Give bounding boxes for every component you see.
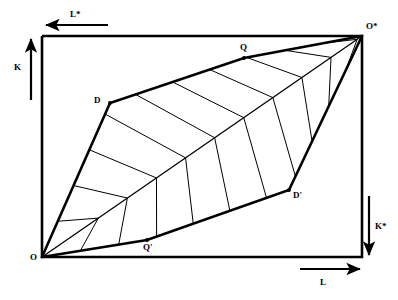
upper-hatch-line [210,70,273,98]
vertex-dot-D [108,101,112,105]
edgeworth-box-diagram: ODQO*Q'D' L*KLK* [0,0,398,300]
axis-label-K-star: K* [375,222,387,231]
vertex-dot-Q [242,56,246,60]
lower-hatch-line [302,77,312,141]
upper-lens-hatching [58,39,357,221]
upper-hatch-line [285,50,331,57]
lower-hatch-line [329,57,331,106]
upper-hatch-line [136,94,215,137]
vertex-label-D: D [94,96,101,105]
axis-label-L: L [320,278,326,287]
vertex-label-O: O [30,253,37,262]
lower-hatch-line [119,198,128,245]
upper-hatch-line [173,82,244,118]
lower-hatch-line [80,218,98,251]
lower-hatch-line [273,98,296,177]
axis-label-L-star: L* [70,10,81,19]
vertex-dot-Dprime [287,188,291,192]
diagram-canvas [0,0,398,300]
upper-hatch-line [58,218,99,221]
vertex-label-Q: Q [240,43,247,52]
vertex-label-Qprime: Q' [143,243,153,252]
axis-arrows [31,25,369,269]
upper-hatch-line [74,186,128,199]
vertex-label-Ostar: O* [366,22,378,31]
upper-hatch-line [89,150,156,178]
axis-label-K: K [14,63,21,72]
lower-hatch-line [244,118,267,198]
lower-hatch-line [215,138,230,211]
upper-hatch-line [105,114,185,158]
upper-hatch-line [247,57,302,77]
lower-lens-hatching [80,39,357,250]
lower-hatch-line [186,158,194,224]
vertex-label-Dprime: D' [293,191,302,200]
